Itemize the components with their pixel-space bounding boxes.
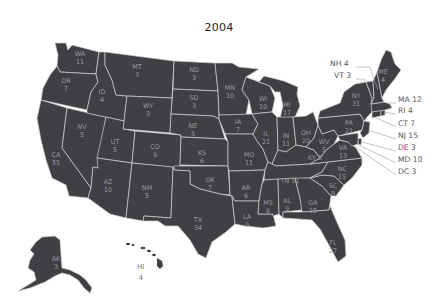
state-label-me: ME4 xyxy=(378,68,388,84)
state-abbr: TX xyxy=(194,216,202,224)
electoral-votes: 21 xyxy=(345,127,353,135)
state-label-ga: GA15 xyxy=(308,199,317,215)
electoral-votes: 10 xyxy=(259,103,267,111)
electoral-votes: 7 xyxy=(235,126,241,134)
state-label-in: IN11 xyxy=(282,132,290,148)
state-abbr: WA xyxy=(75,50,85,58)
callout-nh: NH 4 xyxy=(330,59,349,68)
state-hi[interactable] xyxy=(126,243,163,269)
electoral-votes: 7 xyxy=(61,85,70,93)
state-abbr: WY xyxy=(143,102,153,110)
state-label-tx: TX34 xyxy=(194,216,202,232)
electoral-votes: 11 xyxy=(75,58,85,66)
state-abbr: IA xyxy=(235,118,241,126)
state-label-mn: MN10 xyxy=(225,84,235,100)
electoral-votes: 17 xyxy=(283,109,291,117)
state-abbr: ME xyxy=(378,68,388,76)
electoral-votes: 5 xyxy=(142,192,152,200)
state-label-wy: WY3 xyxy=(143,102,153,118)
callout-ma: MA 12 xyxy=(398,95,422,104)
state-abbr: OH xyxy=(301,129,311,137)
state-abbr: AZ xyxy=(104,178,113,186)
state-label-id: ID4 xyxy=(99,88,106,104)
electoral-votes: 7 xyxy=(205,184,214,192)
electoral-votes: 4 xyxy=(378,76,388,84)
callout-nj: NJ 15 xyxy=(398,131,418,140)
state-label-ks: KS6 xyxy=(198,149,206,165)
electoral-votes: 9 xyxy=(243,221,251,229)
state-abbr: NC xyxy=(337,165,346,173)
electoral-votes: 11 xyxy=(244,159,255,167)
state-label-nc: NC15 xyxy=(337,165,346,181)
state-label-az: AZ10 xyxy=(104,178,113,194)
state-abbr: IL xyxy=(262,130,270,138)
state-label-fl: FL27 xyxy=(329,239,337,255)
electoral-votes: 21 xyxy=(262,138,270,146)
state-label-ia: IA7 xyxy=(235,118,241,134)
state-abbr: UT xyxy=(111,138,120,146)
state-abbr: NY xyxy=(352,92,361,100)
state-abbr: SD xyxy=(190,94,199,102)
electoral-votes: 3 xyxy=(189,74,199,82)
electoral-votes: 31 xyxy=(352,100,361,108)
callout-md: MD 10 xyxy=(398,155,422,164)
electoral-votes: 15 xyxy=(308,207,317,215)
state-label-ne: NE5 xyxy=(189,122,198,138)
electoral-votes: 6 xyxy=(263,207,273,215)
electoral-votes: 5 xyxy=(189,130,198,138)
electoral-votes: 3 xyxy=(132,71,141,79)
electoral-votes: 11 xyxy=(282,140,290,148)
callout-de: DE 3 xyxy=(398,143,416,152)
state-label-va: VA13 xyxy=(339,144,347,160)
state-label-nd: ND3 xyxy=(189,66,199,82)
state-label-pa: PA21 xyxy=(345,119,353,135)
callout-dc: DC 3 xyxy=(398,167,416,176)
electoral-votes: 10 xyxy=(104,186,113,194)
state-label-la: LA9 xyxy=(243,213,251,229)
state-abbr: AR xyxy=(242,184,251,192)
state-label-ok: OK7 xyxy=(205,176,214,192)
state-label-oh: OH20 xyxy=(301,129,311,145)
electoral-votes: 15 xyxy=(337,173,346,181)
electoral-votes: 8 xyxy=(329,190,338,198)
state-abbr: PA xyxy=(345,119,353,127)
electoral-votes: 5 xyxy=(111,146,120,154)
state-label-wa: WA11 xyxy=(75,50,85,66)
us-map xyxy=(0,0,438,302)
state-abbr: SC xyxy=(329,182,338,190)
state-ny[interactable] xyxy=(318,82,372,121)
electoral-votes: 20 xyxy=(301,137,311,145)
state-label-ny: NY31 xyxy=(352,92,361,108)
callout-ct: CT 7 xyxy=(398,119,415,128)
state-abbr: FL xyxy=(329,239,337,247)
state-abbr: IN xyxy=(282,132,290,140)
state-de[interactable] xyxy=(358,138,362,145)
callout-ri: RI 4 xyxy=(398,106,413,115)
callout-vt: VT 3 xyxy=(334,71,351,80)
electoral-votes: 10 xyxy=(225,92,235,100)
state-abbr: MO xyxy=(244,151,255,159)
state-abbr: ND xyxy=(189,66,199,74)
state-abbr: OR xyxy=(61,77,70,85)
state-abbr: CO xyxy=(150,143,160,151)
state-abbr: WI xyxy=(259,95,267,103)
state-label-il: IL21 xyxy=(262,130,270,146)
state-abbr: MT xyxy=(132,63,141,71)
state-abbr: ID xyxy=(99,88,106,96)
electoral-votes: 9 xyxy=(283,205,291,213)
state-abbr: AK xyxy=(52,255,61,263)
electoral-votes: 5 xyxy=(319,146,330,154)
state-abbr: GA xyxy=(308,199,317,207)
electoral-votes: 9 xyxy=(150,151,160,159)
state-label-sc: SC8 xyxy=(329,182,338,198)
electoral-votes: 3 xyxy=(190,102,199,110)
state-ri[interactable] xyxy=(381,110,385,116)
state-abbr: NM xyxy=(142,184,152,192)
inline-label: KY 8 xyxy=(308,154,322,162)
electoral-votes: 3 xyxy=(143,110,153,118)
state-abbr: MI xyxy=(283,101,291,109)
state-abbr: WV xyxy=(319,138,330,146)
state-label-nm: NM5 xyxy=(142,184,152,200)
hawaii-abbr: HI xyxy=(137,262,144,273)
state-label-ca: CA55 xyxy=(52,151,61,167)
